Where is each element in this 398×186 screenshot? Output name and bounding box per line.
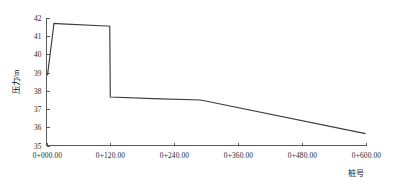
- y-tick-label: 36: [34, 123, 42, 132]
- x-axis-title: 桩号: [348, 168, 364, 178]
- x-tick-label: 0+480.00: [288, 151, 318, 160]
- y-axis-tick-labels: 3536373839404142: [34, 14, 42, 151]
- y-tick-label: 38: [34, 87, 42, 96]
- y-axis-title: 压力/m: [11, 69, 21, 94]
- y-tick-label: 39: [34, 69, 42, 78]
- x-tick-label: 0+120.00: [96, 151, 126, 160]
- y-tick-label: 42: [34, 14, 42, 23]
- plot-axes: [47, 18, 366, 146]
- y-tick-label: 40: [34, 50, 42, 59]
- x-tick-label: 0+360.00: [224, 151, 254, 160]
- line-chart: 3536373839404142 0+000.000+120.000+240.0…: [0, 0, 398, 186]
- data-series-group: [47, 23, 366, 133]
- y-tick-label: 41: [34, 32, 42, 41]
- x-tick-label: 0+600.00: [352, 151, 382, 160]
- x-tick-label: 0+240.00: [160, 151, 190, 160]
- x-tick-label: 0+000.00: [33, 151, 63, 160]
- x-axis-tick-labels: 0+000.000+120.000+240.000+360.000+480.00…: [33, 151, 382, 160]
- data-series-line: [47, 23, 366, 133]
- chart-container: 3536373839404142 0+000.000+120.000+240.0…: [0, 0, 398, 186]
- y-tick-label: 37: [34, 105, 42, 114]
